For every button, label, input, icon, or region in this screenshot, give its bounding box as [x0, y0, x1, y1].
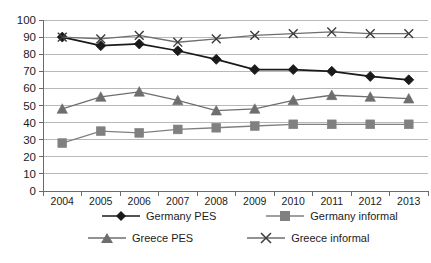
y-tick-label-50: 50: [23, 100, 36, 112]
series-line: [62, 92, 409, 111]
data-point-marker: [327, 66, 337, 76]
data-point-marker: [289, 120, 298, 129]
data-point-marker: [250, 65, 260, 75]
legend-item-germany-informal[interactable]: Germany informal: [264, 205, 397, 227]
y-tick-label-20: 20: [23, 151, 36, 163]
data-point-marker: [404, 120, 413, 129]
legend-label-germany-informal: Germany informal: [306, 210, 397, 222]
y-tick-label-70: 70: [23, 65, 36, 77]
y-tick-label-80: 80: [23, 48, 36, 60]
germany-informal-marker-icon: [264, 209, 306, 223]
legend-row-1: Germany PES Germany informal: [0, 205, 431, 227]
line-chart: 0102030405060708090100 20042005200620072…: [0, 0, 431, 263]
series-germany-pes: [57, 32, 414, 85]
series-greece-pes: [57, 87, 414, 115]
legend-label-germany-pes: Germany PES: [142, 210, 216, 222]
plot-svg: 0102030405060708090100: [0, 0, 431, 200]
germany-pes-marker-icon: [100, 209, 142, 223]
data-point-marker: [58, 139, 67, 148]
greece-informal-marker-icon: [245, 231, 287, 245]
legend-row-2: Greece PES Greece informal: [0, 227, 431, 249]
series-germany-informal: [58, 120, 413, 148]
data-point-marker: [96, 127, 105, 136]
y-tick-label-40: 40: [23, 117, 36, 129]
legend-item-greece-pes[interactable]: Greece PES: [86, 227, 193, 249]
data-point-marker: [327, 120, 336, 129]
legend-item-germany-pes[interactable]: Germany PES: [100, 205, 216, 227]
data-point-marker: [135, 128, 144, 137]
y-axis-tick-labels: 0102030405060708090100: [17, 14, 36, 197]
data-point-marker: [134, 39, 144, 49]
data-point-marker: [250, 122, 259, 131]
y-tick-label-10: 10: [23, 168, 36, 180]
series-line: [62, 37, 409, 80]
legend-item-greece-informal[interactable]: Greece informal: [245, 227, 369, 249]
y-tick-label-60: 60: [23, 82, 36, 94]
legend-label-greece-informal: Greece informal: [287, 232, 369, 244]
data-point-marker: [288, 65, 298, 75]
data-point-marker: [173, 125, 182, 134]
data-point-marker: [365, 71, 375, 81]
data-point-marker: [211, 54, 221, 64]
data-point-marker: [366, 120, 375, 129]
y-tick-label-100: 100: [17, 14, 36, 26]
plot-area: 0102030405060708090100 20042005200620072…: [0, 0, 431, 200]
y-tick-label-30: 30: [23, 134, 36, 146]
greece-pes-marker-icon: [86, 231, 128, 245]
legend-label-greece-pes: Greece PES: [128, 232, 193, 244]
y-tick-label-90: 90: [23, 31, 36, 43]
data-point-marker: [212, 123, 221, 132]
data-series-group: [57, 28, 414, 148]
chart-legend: Germany PES Germany informal Greece PES: [0, 205, 431, 263]
series-line: [62, 124, 409, 143]
data-point-marker: [404, 75, 414, 85]
